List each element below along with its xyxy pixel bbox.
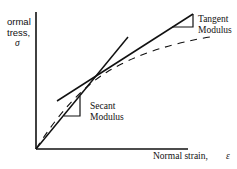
sigma-symbol: σ: [7, 38, 31, 49]
x-axis-label: Normal strain,: [153, 152, 208, 162]
y-axis-label-line1: ormal: [7, 16, 31, 27]
epsilon-symbol: ε: [226, 152, 230, 162]
stress-strain-curve: [36, 36, 216, 149]
secant-label-line2: Modulus: [90, 112, 124, 123]
y-axis-label-line2: tress,: [7, 27, 31, 38]
tangent-label-line1: Tangent: [198, 14, 232, 25]
tangent-label-line2: Modulus: [198, 25, 232, 36]
secant-line: [36, 37, 128, 149]
secant-modulus-label: Secant Modulus: [90, 101, 124, 123]
secant-label-line1: Secant: [90, 101, 124, 112]
tangent-modulus-label: Tangent Modulus: [198, 14, 232, 36]
y-axis-label: ormal tress, σ: [7, 16, 31, 49]
